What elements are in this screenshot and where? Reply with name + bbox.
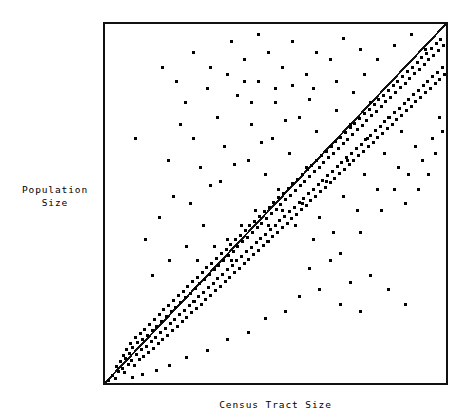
y-axis-label: Population Size [12, 183, 98, 209]
data-points-group [107, 33, 446, 382]
scatter-plot-figure: Population Size Census Tract Size [0, 0, 471, 415]
chart-title [0, 0, 471, 1]
plot-frame [103, 22, 448, 385]
plot-canvas [105, 24, 446, 383]
x-axis-label: Census Tract Size [103, 399, 448, 410]
identity-line [105, 24, 446, 383]
